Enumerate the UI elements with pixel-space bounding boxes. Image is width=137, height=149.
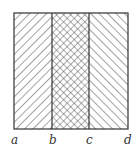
label-d: d	[124, 133, 132, 147]
label-c: c	[86, 133, 93, 147]
region-middle	[52, 13, 89, 129]
hatched-square-diagram: a b c d	[0, 0, 137, 149]
region-left	[14, 13, 52, 129]
label-b: b	[49, 133, 57, 147]
label-a: a	[11, 133, 18, 147]
region-right	[89, 13, 128, 129]
